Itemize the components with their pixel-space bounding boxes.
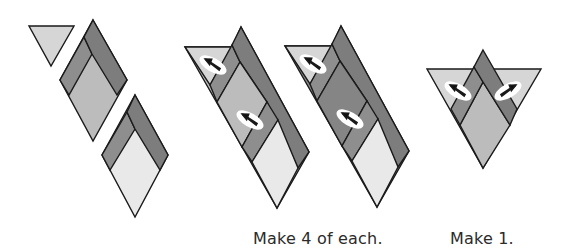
quilt-assembly-diagram — [0, 0, 572, 252]
chevron-diamond-light — [102, 95, 168, 217]
chevron-diamond-medium — [60, 20, 127, 141]
figure-triangle-unit — [427, 50, 541, 168]
figure-loose-pieces — [29, 20, 168, 217]
make-each-label: Make 4 of each. — [253, 229, 383, 248]
figure-strip-dark — [285, 26, 409, 207]
make-one-label: Make 1. — [450, 229, 514, 248]
light-triangle — [29, 26, 74, 66]
